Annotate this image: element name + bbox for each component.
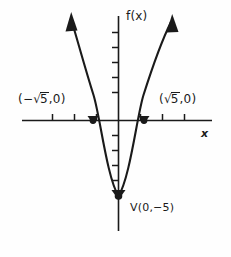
y-axis-label: f(x) xyxy=(126,10,148,22)
x-axis-label: x xyxy=(201,128,208,139)
root-positive-radicand: 5 xyxy=(171,92,180,105)
parabola-curve xyxy=(72,22,171,196)
parabola-figure: f(x) x (−√5,0) (√5,0) V(0,−5) xyxy=(0,0,231,257)
graph-canvas xyxy=(0,0,231,257)
root-negative-label: (−√5,0) xyxy=(18,92,66,105)
root-positive-label: (√5,0) xyxy=(159,92,196,105)
root-positive-close: ,0) xyxy=(180,92,197,106)
curve-arrowhead-right xyxy=(166,14,178,33)
point-marker-vertex xyxy=(112,190,126,200)
root-negative-open: (− xyxy=(18,92,33,106)
root-negative-close: ,0) xyxy=(49,92,66,106)
curve-arrowhead-left xyxy=(66,12,78,32)
root-negative-radicand: 5 xyxy=(40,92,49,105)
vertex-label: V(0,−5) xyxy=(130,202,174,213)
